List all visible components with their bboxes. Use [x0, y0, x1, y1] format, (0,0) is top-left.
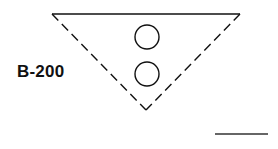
triangle-right-edge: [146, 14, 240, 110]
triangle-left-edge: [52, 14, 146, 110]
circle-lower: [135, 62, 159, 86]
diagram-label: B-200: [17, 62, 64, 82]
circle-upper: [135, 25, 159, 49]
